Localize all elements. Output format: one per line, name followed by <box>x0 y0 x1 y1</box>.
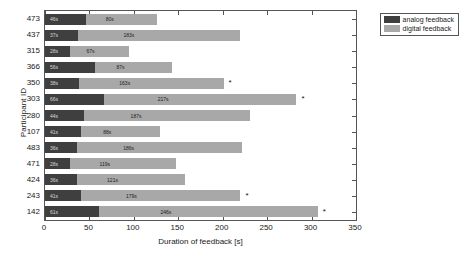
bar-value-label: 119s <box>99 161 109 167</box>
x-axis-tick-label: 200 <box>215 223 228 232</box>
bar-row: 37s183s <box>45 30 356 41</box>
bar-value-label: 66s <box>50 96 58 102</box>
legend-item: analog feedback <box>384 16 454 23</box>
y-axis-tick-label: 350 <box>2 78 40 87</box>
bar-segment-analog: 41s <box>45 190 81 201</box>
bar-segment-digital: 186s <box>77 142 242 153</box>
bar-value-label: 67s <box>87 48 95 54</box>
y-axis-tick-label: 315 <box>2 46 40 55</box>
bar-value-label: 163s <box>119 80 130 86</box>
bar-value-label: 187s <box>131 113 142 119</box>
chart-legend: analog feedbackdigital feedback <box>380 13 459 36</box>
bar-row: 28s119s <box>45 158 356 169</box>
significance-marker: * <box>229 79 232 87</box>
bar-segment-analog: 66s <box>45 94 104 105</box>
bar-value-label: 87s <box>116 64 124 70</box>
x-axis-tick-label: 100 <box>126 223 139 232</box>
bar-segment-digital: 163s <box>79 78 224 89</box>
legend-label: digital feedback <box>403 25 452 32</box>
bar-value-label: 121s <box>107 177 118 183</box>
bar-segment-analog: 41s <box>45 126 81 137</box>
significance-marker: * <box>323 208 326 216</box>
bar-row: 61s246s* <box>45 206 356 217</box>
chart-figure: Participant ID 4734373153663503032801074… <box>0 0 465 257</box>
bar-row: 36s121s <box>45 174 356 185</box>
y-axis-tick-label: 142 <box>2 206 40 215</box>
y-axis-tick-labels: 473437315366350303280107483471424243142 <box>0 10 40 221</box>
bar-value-label: 38s <box>50 80 58 86</box>
bar-value-label: 36s <box>50 145 58 151</box>
bar-value-label: 44s <box>50 113 58 119</box>
y-axis-tick-label: 303 <box>2 94 40 103</box>
y-axis-tick-label: 280 <box>2 110 40 119</box>
x-axis-tick-labels: 050100150200250300350 <box>44 223 357 237</box>
bar-value-label: 179s <box>126 193 137 199</box>
bar-value-label: 37s <box>50 32 58 38</box>
y-axis-tick-label: 424 <box>2 174 40 183</box>
x-axis-tick <box>356 11 357 15</box>
y-axis-tick-label: 471 <box>2 158 40 167</box>
bar-row: 46s80s <box>45 14 356 25</box>
bar-segment-digital: 67s <box>70 46 130 57</box>
x-axis-tick <box>356 216 357 220</box>
bar-segment-digital: 217s <box>104 94 297 105</box>
bar-row: 44s187s <box>45 110 356 121</box>
x-axis-tick-label: 0 <box>42 223 46 232</box>
bar-value-label: 46s <box>50 16 58 22</box>
bar-row: 38s163s* <box>45 78 356 89</box>
bar-segment-digital: 88s <box>81 126 159 137</box>
bar-segment-analog: 28s <box>45 158 70 169</box>
bar-segment-digital: 179s <box>81 190 240 201</box>
significance-marker: * <box>245 192 248 200</box>
bar-value-label: 217s <box>158 96 169 102</box>
bar-row: 28s67s <box>45 46 356 57</box>
bar-value-label: 28s <box>50 161 58 167</box>
bar-value-label: 186s <box>123 145 134 151</box>
legend-item: digital feedback <box>384 25 454 32</box>
bar-segment-analog: 36s <box>45 142 77 153</box>
bar-segment-analog: 38s <box>45 78 79 89</box>
bar-value-label: 41s <box>50 129 58 135</box>
y-axis-tick-label: 483 <box>2 142 40 151</box>
y-axis-tick-label: 473 <box>2 14 40 23</box>
bar-segment-analog: 44s <box>45 110 84 121</box>
bar-segment-digital: 246s <box>99 206 318 217</box>
x-axis-tick-label: 150 <box>171 223 184 232</box>
bar-segment-analog: 36s <box>45 174 77 185</box>
bar-value-label: 41s <box>50 193 58 199</box>
bar-segment-digital: 187s <box>84 110 250 121</box>
bar-segment-digital: 121s <box>77 174 185 185</box>
bar-row: 41s88s <box>45 126 356 137</box>
y-axis-tick-label: 107 <box>2 126 40 135</box>
bar-row: 56s87s <box>45 62 356 73</box>
bar-value-label: 80s <box>106 16 114 22</box>
bar-segment-analog: 61s <box>45 206 99 217</box>
x-axis-tick-label: 250 <box>259 223 272 232</box>
bar-row: 36s186s <box>45 142 356 153</box>
plot-area: 46s80s37s183s28s67s56s87s38s163s*66s217s… <box>44 10 357 221</box>
significance-marker: * <box>301 95 304 103</box>
y-axis-tick-label: 437 <box>2 30 40 39</box>
bar-value-label: 61s <box>50 209 58 215</box>
bar-value-label: 183s <box>123 32 134 38</box>
bar-row: 66s217s* <box>45 94 356 105</box>
bar-segment-analog: 56s <box>45 62 95 73</box>
y-axis-tick-label: 243 <box>2 190 40 199</box>
bar-value-label: 246s <box>160 209 171 215</box>
legend-swatch-analog <box>384 16 400 23</box>
legend-label: analog feedback <box>403 16 454 23</box>
bar-row: 41s179s* <box>45 190 356 201</box>
bar-segment-analog: 37s <box>45 30 78 41</box>
bar-value-label: 88s <box>103 129 111 135</box>
bar-segment-analog: 28s <box>45 46 70 57</box>
bar-value-label: 36s <box>50 177 58 183</box>
bar-segment-digital: 183s <box>78 30 241 41</box>
x-axis-tick-label: 50 <box>84 223 93 232</box>
x-axis-title: Duration of feedback [s] <box>44 237 357 246</box>
x-axis-tick-label: 300 <box>304 223 317 232</box>
legend-swatch-digital <box>384 25 400 32</box>
bar-value-label: 28s <box>50 48 58 54</box>
bar-segment-digital: 80s <box>86 14 157 25</box>
bar-segment-digital: 119s <box>70 158 176 169</box>
bar-value-label: 56s <box>50 64 58 70</box>
